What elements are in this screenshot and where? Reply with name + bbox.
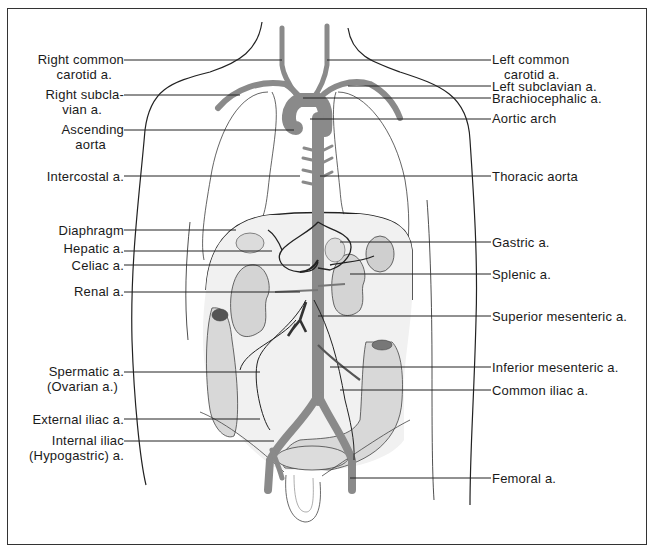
- label-text: (Ovarian a.): [47, 379, 124, 394]
- label-common-iliac: Common iliac a.: [492, 383, 588, 398]
- label-text: carotid a.: [38, 67, 124, 82]
- label-text: Common iliac a.: [492, 383, 588, 398]
- label-text: Ascending: [61, 122, 124, 137]
- label-thoracic-aorta: Thoracic aorta: [492, 169, 578, 184]
- label-text: Right subcla-: [46, 87, 124, 102]
- label-text: Brachiocephalic a.: [492, 91, 602, 106]
- label-text: External iliac a.: [32, 412, 124, 427]
- label-internal-iliac: Internal iliac (Hypogastric) a.: [29, 433, 124, 463]
- label-text: Thoracic aorta: [492, 169, 578, 184]
- label-right-subclavian: Right subcla- vian a.: [46, 87, 124, 117]
- label-splenic: Splenic a.: [492, 267, 551, 282]
- label-superior-mesenteric: Superior mesenteric a.: [492, 309, 627, 324]
- label-text: Internal iliac: [29, 433, 124, 448]
- label-gastric: Gastric a.: [492, 235, 550, 250]
- label-text: Hepatic a.: [63, 241, 124, 256]
- label-text: aorta: [61, 137, 124, 152]
- label-text: Renal a.: [74, 284, 124, 299]
- label-text: (Hypogastric) a.: [29, 448, 124, 463]
- label-text: Inferior mesenteric a.: [492, 360, 619, 375]
- label-femoral: Femoral a.: [492, 471, 556, 486]
- label-text: Celiac a.: [72, 258, 124, 273]
- label-text: Right common: [38, 52, 124, 67]
- label-hepatic: Hepatic a.: [63, 241, 124, 256]
- label-brachiocephalic: Brachiocephalic a.: [492, 91, 602, 106]
- label-text: Intercostal a.: [47, 169, 124, 184]
- organs: [200, 214, 412, 522]
- label-diaphragm: Diaphragm: [59, 223, 124, 238]
- label-celiac: Celiac a.: [72, 258, 124, 273]
- label-text: Left common: [492, 52, 569, 67]
- label-text: vian a.: [46, 102, 124, 117]
- label-text: Diaphragm: [59, 223, 124, 238]
- label-intercostal: Intercostal a.: [47, 169, 124, 184]
- label-right-common-carotid: Right common carotid a.: [38, 52, 124, 82]
- label-inferior-mesenteric: Inferior mesenteric a.: [492, 360, 619, 375]
- label-external-iliac: External iliac a.: [32, 412, 124, 427]
- label-ascending-aorta: Ascending aorta: [61, 122, 124, 152]
- label-left-common-carotid: Left common carotid a.: [492, 52, 569, 82]
- label-text: Aortic arch: [492, 111, 556, 126]
- label-renal: Renal a.: [74, 284, 124, 299]
- label-text: Spermatic a.: [47, 364, 124, 379]
- label-text: Splenic a.: [492, 267, 551, 282]
- label-text: Superior mesenteric a.: [492, 309, 627, 324]
- label-aortic-arch: Aortic arch: [492, 111, 556, 126]
- label-text: Gastric a.: [492, 235, 550, 250]
- label-spermatic: Spermatic a. (Ovarian a.): [47, 364, 124, 394]
- label-text: Femoral a.: [492, 471, 556, 486]
